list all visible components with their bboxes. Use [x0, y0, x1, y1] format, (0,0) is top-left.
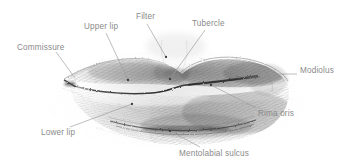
label-commissure: Commissure [17, 44, 64, 52]
leader-dot-mentolabial-sulcus [169, 130, 171, 132]
leader-dot-lower-lip [131, 103, 133, 105]
lips-anatomy-illustration [0, 0, 345, 165]
sketch-scatter-strokes [48, 52, 304, 148]
label-lower-lip: Lower lip [41, 129, 75, 137]
label-filter: Filter [136, 13, 155, 21]
leader-dot-filter [165, 56, 167, 58]
label-upper-lip: Upper lip [84, 23, 118, 31]
label-mentolabial-sulcus: Mentolabial sulcus [179, 150, 249, 158]
label-rima-oris: Rima oris [258, 110, 294, 118]
label-tubercle: Tubercle [192, 20, 225, 28]
leader-dot-rima-oris [210, 84, 212, 86]
figure-canvas: Commissure Upper lip Filter Tubercle Mod… [0, 0, 345, 165]
leader-dot-upper-lip [127, 79, 129, 81]
leader-dot-tubercle [169, 78, 171, 80]
label-modiolus: Modiolus [300, 67, 334, 75]
